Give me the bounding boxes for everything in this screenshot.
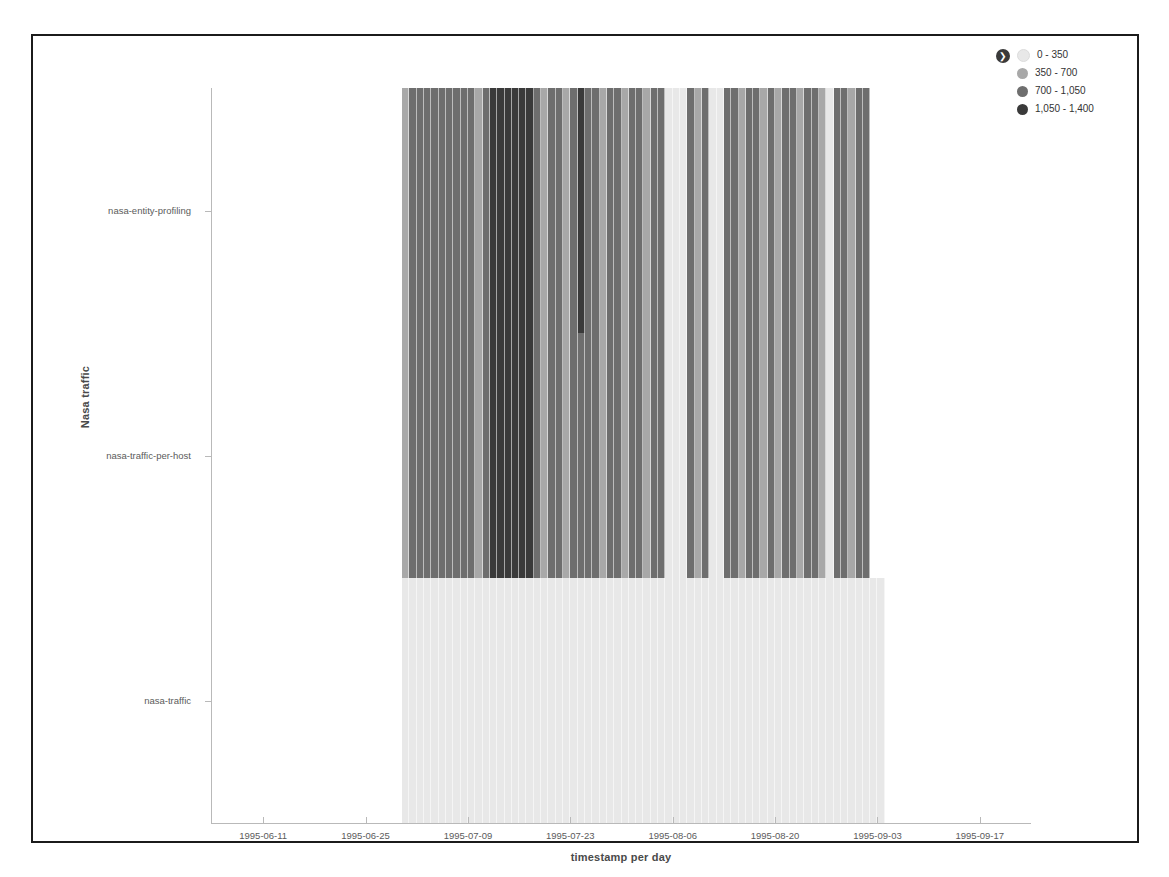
x-axis-tick-mark <box>775 817 776 823</box>
legend-item[interactable]: 350 - 700 <box>1017 64 1137 82</box>
x-axis-tick-mark <box>468 817 469 823</box>
legend-swatch-icon <box>1017 68 1028 79</box>
legend-collapse-icon[interactable]: ❯ <box>996 49 1010 63</box>
x-axis-tick-mark <box>877 817 878 823</box>
x-axis-tick-mark <box>570 817 571 823</box>
x-axis-tick-mark <box>673 817 674 823</box>
legend-swatch-icon <box>1017 49 1030 62</box>
legend-item[interactable]: 1,050 - 1,400 <box>1017 100 1137 118</box>
x-axis-tick-label: 1995-08-20 <box>751 831 800 841</box>
x-axis-tick-label: 1995-07-09 <box>444 831 493 841</box>
legend-item-label: 0 - 350 <box>1037 46 1068 64</box>
legend-item-label: 1,050 - 1,400 <box>1035 100 1094 118</box>
legend-item[interactable]: 700 - 1,050 <box>1017 82 1137 100</box>
x-axis-tick-mark <box>366 817 367 823</box>
figure-frame: Nasa traffic nasa-entity-profilingnasa-t… <box>31 34 1139 843</box>
legend: ❯ 0 - 350350 - 700700 - 1,0501,050 - 1,4… <box>1017 46 1137 118</box>
x-axis-tick-mark <box>263 817 264 823</box>
x-axis-tick-label: 1995-09-17 <box>956 831 1005 841</box>
x-axis-tick-labels: 1995-06-111995-06-251995-07-091995-07-23… <box>33 36 1137 845</box>
legend-swatch-icon <box>1017 104 1028 115</box>
x-axis-tick-label: 1995-06-11 <box>239 831 287 841</box>
x-axis-tick-label: 1995-09-03 <box>853 831 902 841</box>
x-axis-tick-label: 1995-07-23 <box>546 831 595 841</box>
legend-item-label: 350 - 700 <box>1035 64 1077 82</box>
x-axis-tick-label: 1995-06-25 <box>341 831 390 841</box>
legend-swatch-icon <box>1017 86 1028 97</box>
legend-item[interactable]: 0 - 350 <box>1017 46 1137 64</box>
x-axis-tick-label: 1995-08-06 <box>648 831 697 841</box>
x-axis-title: timestamp per day <box>211 851 1031 863</box>
chart-screenshot: Nasa traffic nasa-entity-profilingnasa-t… <box>0 0 1169 877</box>
legend-item-label: 700 - 1,050 <box>1035 82 1086 100</box>
x-axis-tick-mark <box>980 817 981 823</box>
